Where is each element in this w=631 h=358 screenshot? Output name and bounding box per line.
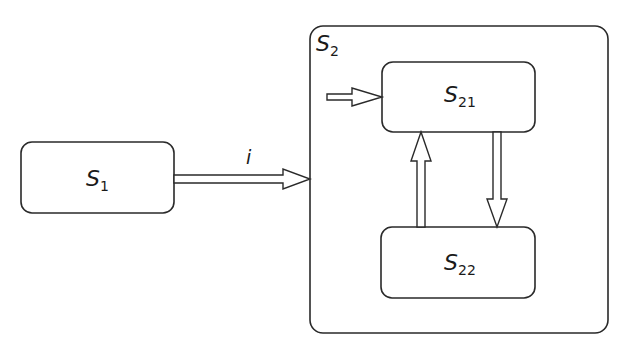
statechart-diagram: S2 S1 S21 S22 i (0, 0, 631, 358)
transition-label-i: i (246, 146, 252, 168)
transition-arrow-s1-s2 (174, 169, 310, 189)
